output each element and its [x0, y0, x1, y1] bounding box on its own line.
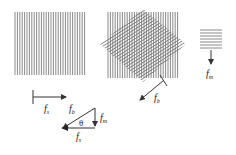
- triangle-fs-label: fs: [76, 131, 82, 143]
- fs-vector-arrow: [33, 90, 66, 104]
- moire-diagram: fs fb fm fb fm fs θ: [0, 0, 236, 155]
- fm-label: fm: [206, 68, 214, 80]
- triangle-fb-label: fb: [69, 103, 75, 115]
- sample-grating: [15, 12, 85, 75]
- moire-fringes: [200, 30, 222, 48]
- triangle-fm-label: fm: [100, 112, 108, 124]
- fs-label: fs: [44, 103, 50, 115]
- vector-triangle: [61, 108, 95, 131]
- superimposed-gratings: [95, 0, 190, 155]
- theta-label: θ: [79, 118, 83, 128]
- fb-label: fb: [154, 92, 160, 104]
